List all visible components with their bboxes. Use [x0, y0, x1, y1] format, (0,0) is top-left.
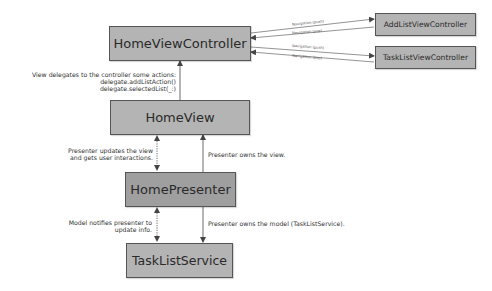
- annotation-line: delegate.selectedList(_:): [32, 85, 176, 92]
- node-home-presenter: HomePresenter: [125, 172, 236, 207]
- node-label: HomeViewController: [113, 36, 246, 51]
- annotation-line: Presenter updates the view: [68, 147, 153, 154]
- node-task-list-service: TaskListService: [126, 243, 233, 278]
- node-home-view: HomeView: [110, 100, 250, 135]
- annotation-presenter-owns-view: Presenter owns the view.: [208, 151, 285, 158]
- node-label: HomePresenter: [130, 182, 231, 197]
- annotation-line: View delegates to the controller some ac…: [32, 71, 176, 78]
- node-label: TaskListService: [132, 253, 227, 268]
- node-label: HomeView: [145, 110, 214, 125]
- annotation-presenter-updates-view: Presenter updates the view and gets user…: [68, 147, 153, 161]
- node-task-list-view-controller: TaskListViewController: [375, 46, 476, 69]
- annotation-model-notifies: Model notifies presenter to update info.: [69, 219, 152, 233]
- node-add-list-view-controller: AddListViewController: [375, 13, 476, 36]
- node-label: TaskListViewController: [383, 53, 468, 62]
- annotation-line: update info.: [69, 226, 152, 233]
- annotation-view-delegates: View delegates to the controller some ac…: [32, 71, 176, 92]
- annotation-line: delegate.addListAction(): [32, 78, 176, 85]
- annotation-line: and gets user interactions.: [68, 154, 153, 161]
- node-label: AddListViewController: [384, 20, 467, 29]
- node-home-view-controller: HomeViewController: [109, 26, 251, 61]
- annotation-presenter-owns-model: Presenter owns the model (TaskListServic…: [208, 220, 345, 227]
- annotation-line: Model notifies presenter to: [69, 219, 152, 226]
